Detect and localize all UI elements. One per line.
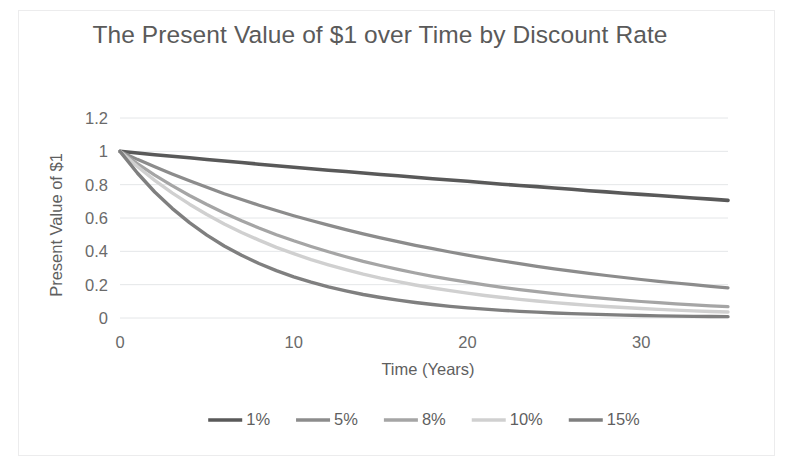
x-axis-tick-label: 10 [285,333,303,351]
y-axis-tick-label: 1 [99,142,108,160]
chart-plot-area: 00.20.40.60.811.2 0102030 Present Value … [0,0,798,467]
y-axis-tick-label: 0.4 [85,242,108,260]
chart-legend: 1%5%8%10%15% [208,410,640,428]
y-axis-tick-label: 0.8 [85,176,108,194]
series-line-8pct [120,151,728,306]
y-axis-tick-label: 0 [99,309,108,327]
y-axis-tick-label: 0.6 [85,209,108,227]
y-axis-title: Present Value of $1 [47,153,65,297]
y-axis-tick-label: 0.2 [85,276,108,294]
legend-label-5pct: 5% [334,410,358,428]
series-line-10pct [120,151,728,312]
x-axis-title: Time (Years) [381,360,474,378]
x-axis-tick-label: 30 [632,333,650,351]
legend-label-10pct: 10% [510,410,543,428]
series-line-1pct [120,151,728,200]
x-axis-tick-label: 20 [458,333,476,351]
legend-label-15pct: 15% [607,410,640,428]
series-lines [120,151,728,316]
y-axis-tick-labels: 00.20.40.60.811.2 [85,109,108,327]
legend-label-1pct: 1% [246,410,270,428]
series-line-15pct [120,151,728,316]
series-line-5pct [120,151,728,287]
x-axis-tick-label: 0 [115,333,124,351]
y-axis-tick-label: 1.2 [85,109,108,127]
x-axis-tick-labels: 0102030 [115,333,650,351]
legend-label-8pct: 8% [422,410,446,428]
